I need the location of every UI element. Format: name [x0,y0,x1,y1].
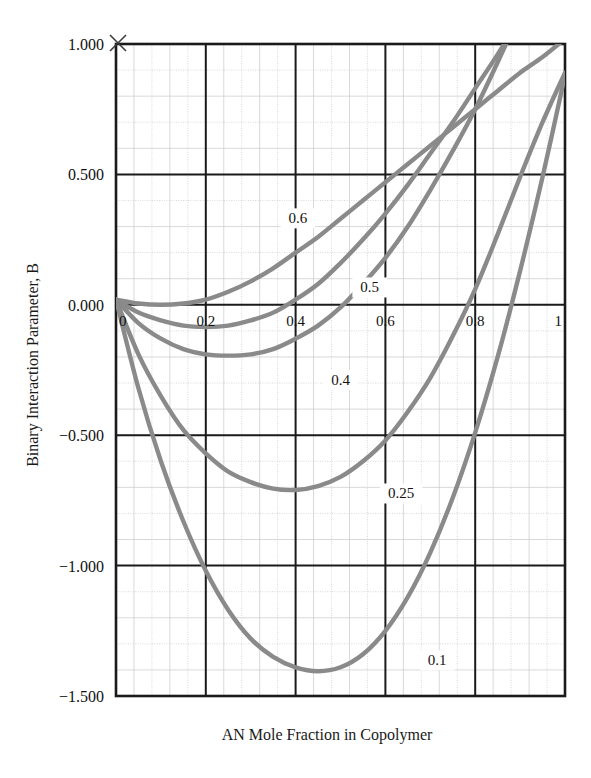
x-tick-label: 0.2 [196,313,215,329]
curve-label-0-25: 0.25 [388,485,414,501]
x-tick-label: 0.4 [286,313,305,329]
curve-label-0-6: 0.6 [288,210,307,226]
x-tick-label: 1 [555,313,563,329]
y-tick-label: 1.000 [68,36,104,53]
x-tick-label: 0.8 [466,313,485,329]
curve-label-0-1: 0.1 [428,652,447,668]
y-tick-label: −0.500 [59,427,104,444]
x-axis-title: AN Mole Fraction in Copolymer [222,726,433,744]
chart-figure: 0.60.50.40.250.1 00.20.40.60.81 1.0000.5… [0,0,591,778]
y-tick-label: 0.500 [68,166,104,183]
y-axis-title: Binary Interaction Parameter, B [24,263,42,467]
x-tick-label: 0.6 [376,313,395,329]
y-tick-label: 0.000 [68,297,104,314]
x-tick-label: 0 [119,313,127,329]
curve-label-0-5: 0.5 [360,279,379,295]
curve-label-0-4: 0.4 [331,372,350,388]
y-tick-label: −1.000 [59,558,104,575]
y-tick-label: −1.500 [59,688,104,705]
binary-interaction-parameter-chart: 0.60.50.40.250.1 00.20.40.60.81 1.0000.5… [0,0,591,778]
